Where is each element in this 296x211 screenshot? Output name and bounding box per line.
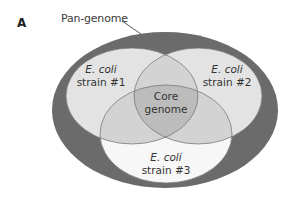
core-label-line2: genome — [145, 103, 188, 116]
pan-genome-label: Pan-genome — [61, 12, 128, 25]
pan-genome-venn-figure: A Pan-genome E. coli strain #1 E. coli s… — [0, 0, 296, 211]
strain-1-species: E. coli — [77, 63, 126, 76]
strain-1-name: strain #1 — [77, 76, 126, 89]
strain-2-name: strain #2 — [203, 76, 252, 89]
strain-1-label: E. coli strain #1 — [77, 63, 126, 89]
panel-label: A — [17, 16, 26, 30]
strain-3-label: E. coli strain #3 — [142, 151, 191, 177]
strain-2-label: E. coli strain #2 — [203, 63, 252, 89]
strain-2-species: E. coli — [203, 63, 252, 76]
core-genome-label: Core genome — [145, 90, 188, 116]
core-label-line1: Core — [145, 90, 188, 103]
strain-3-name: strain #3 — [142, 164, 191, 177]
strain-3-species: E. coli — [142, 151, 191, 164]
